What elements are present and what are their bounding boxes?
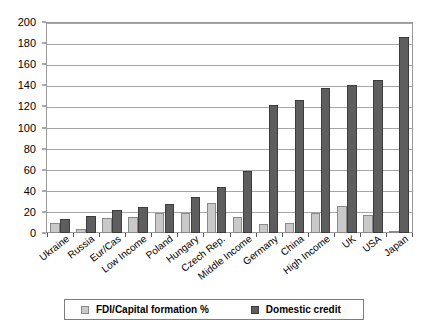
y-tick-mark	[42, 43, 46, 44]
y-tick-label: 100	[18, 122, 36, 134]
x-category-label: USA	[360, 233, 383, 254]
y-tick-label: 120	[18, 100, 36, 112]
bar-group	[47, 23, 73, 233]
x-tick-mark	[256, 233, 257, 237]
y-tick-mark	[42, 127, 46, 128]
bar-group	[386, 23, 412, 233]
y-axis: 020406080100120140160180200	[0, 22, 42, 233]
bar-fdi-capital-formation	[363, 215, 373, 233]
bar-domestic-credit	[112, 210, 122, 233]
bar-domestic-credit	[138, 207, 148, 233]
bar-domestic-credit	[373, 80, 383, 233]
y-tick-label: 140	[18, 79, 36, 91]
bar-group	[73, 23, 99, 233]
chart-legend: FDI/Capital formation %Domestic credit	[64, 299, 364, 320]
x-tick-mark	[386, 233, 387, 237]
bar-group	[151, 23, 177, 233]
bar-fdi-capital-formation	[155, 213, 165, 233]
bar-domestic-credit	[321, 88, 331, 233]
legend-swatch-icon	[81, 306, 89, 314]
x-tick-mark	[412, 233, 413, 237]
bar-group	[203, 23, 229, 233]
legend-entry: FDI/Capital formation %	[81, 304, 209, 315]
bar-domestic-credit	[165, 204, 175, 233]
bar-fdi-capital-formation	[259, 224, 269, 233]
legend-swatch-icon	[251, 306, 259, 314]
x-tick-mark	[125, 233, 126, 237]
y-tick-mark	[42, 148, 46, 149]
bar-group	[125, 23, 151, 233]
y-tick-mark	[42, 211, 46, 212]
x-category-label: Ukraine	[37, 233, 71, 263]
x-tick-mark	[282, 233, 283, 237]
bar-fdi-capital-formation	[233, 217, 243, 233]
x-tick-mark	[99, 233, 100, 237]
bar-group	[334, 23, 360, 233]
legend-entry: Domestic credit	[251, 304, 341, 315]
bar-fdi-capital-formation	[285, 223, 295, 234]
y-tick-mark	[42, 64, 46, 65]
bar-group	[230, 23, 256, 233]
bar-group	[99, 23, 125, 233]
y-tick-label: 80	[24, 143, 36, 155]
y-tick-label: 200	[18, 16, 36, 28]
x-tick-mark	[47, 233, 48, 237]
bar-group	[308, 23, 334, 233]
bar-fdi-capital-formation	[50, 223, 60, 234]
bar-domestic-credit	[269, 105, 279, 233]
bar-group	[360, 23, 386, 233]
bar-fdi-capital-formation	[128, 217, 138, 233]
legend-label: FDI/Capital formation %	[96, 304, 209, 315]
y-tick-label: 40	[24, 185, 36, 197]
bars-layer	[47, 23, 412, 233]
legend-label: Domestic credit	[266, 304, 341, 315]
bar-domestic-credit	[60, 219, 70, 233]
bar-group	[177, 23, 203, 233]
y-tick-label: 180	[18, 37, 36, 49]
x-axis: UkraineRussiaEur/CasLow IncomePolandHung…	[0, 233, 428, 293]
bar-fdi-capital-formation	[337, 206, 347, 233]
y-tick-mark	[42, 22, 46, 23]
y-tick-mark	[42, 85, 46, 86]
bar-chart-figure: 020406080100120140160180200 UkraineRussi…	[0, 0, 428, 334]
y-tick-label: 60	[24, 164, 36, 176]
bar-domestic-credit	[191, 197, 201, 233]
x-tick-mark	[203, 233, 204, 237]
y-tick-mark	[42, 190, 46, 191]
y-tick-label: 20	[24, 206, 36, 218]
bar-domestic-credit	[243, 171, 253, 233]
bar-group	[282, 23, 308, 233]
bar-group	[256, 23, 282, 233]
x-tick-mark	[230, 233, 231, 237]
bar-fdi-capital-formation	[207, 203, 217, 233]
bar-domestic-credit	[295, 100, 305, 233]
bar-domestic-credit	[86, 216, 96, 233]
x-tick-mark	[151, 233, 152, 237]
x-tick-mark	[334, 233, 335, 237]
y-tick-label: 160	[18, 58, 36, 70]
y-tick-mark	[42, 169, 46, 170]
x-category-label: UK	[340, 233, 358, 250]
x-tick-mark	[308, 233, 309, 237]
bar-fdi-capital-formation	[311, 213, 321, 233]
bar-domestic-credit	[399, 37, 409, 233]
bar-fdi-capital-formation	[102, 218, 112, 233]
x-tick-mark	[177, 233, 178, 237]
bar-fdi-capital-formation	[181, 213, 191, 233]
x-tick-mark	[73, 233, 74, 237]
bar-domestic-credit	[347, 85, 357, 233]
y-tick-mark	[42, 106, 46, 107]
bar-domestic-credit	[217, 187, 227, 233]
x-tick-mark	[360, 233, 361, 237]
